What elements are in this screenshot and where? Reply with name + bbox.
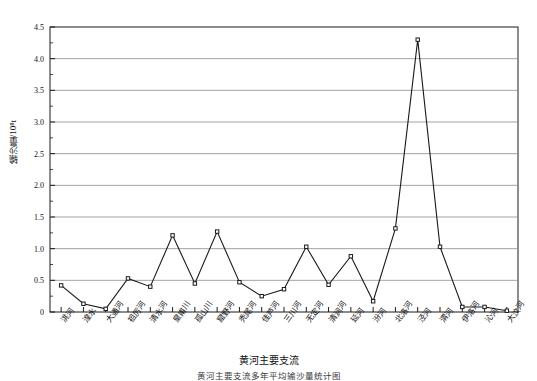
figure-caption: 黄河主要支流多年平均输沙量统计图: [0, 369, 537, 381]
data-point: [461, 305, 464, 308]
data-point: [349, 255, 352, 258]
y-tick-label: 4.0: [34, 55, 44, 64]
chart-figure: 00.51.01.52.02.53.03.54.04.5 输沙量/10⁸t 黄河…: [0, 0, 537, 381]
y-tick-label: 3.5: [34, 86, 44, 95]
data-point: [416, 38, 419, 41]
data-point: [327, 283, 330, 286]
y-tick-label: 2.0: [34, 181, 44, 190]
data-point: [238, 281, 241, 284]
chart-plot-area: 00.51.01.52.02.53.03.54.04.5: [0, 0, 537, 381]
x-axis-title: 黄河主要支流: [0, 352, 537, 367]
data-point: [438, 245, 441, 248]
data-point: [260, 294, 263, 297]
y-tick-label: 3.0: [34, 118, 44, 127]
y-tick-label: 0: [40, 308, 44, 317]
y-tick-label: 4.5: [34, 23, 44, 32]
data-point: [171, 234, 174, 237]
data-point: [149, 285, 152, 288]
y-axis-title: 输沙量/10⁸t: [8, 120, 24, 164]
data-point: [305, 245, 308, 248]
data-point: [82, 302, 85, 305]
y-tick-label: 2.5: [34, 150, 44, 159]
y-tick-label: 0.5: [34, 276, 44, 285]
data-point: [126, 277, 129, 280]
data-point: [193, 282, 196, 285]
data-point: [371, 300, 374, 303]
y-tick-label: 1.0: [34, 245, 44, 254]
data-point: [394, 227, 397, 230]
data-point: [483, 305, 486, 308]
y-tick-label: 1.5: [34, 213, 44, 222]
x-ticks: [61, 307, 507, 312]
data-point: [59, 284, 62, 287]
data-point: [215, 230, 218, 233]
data-point: [282, 288, 285, 291]
